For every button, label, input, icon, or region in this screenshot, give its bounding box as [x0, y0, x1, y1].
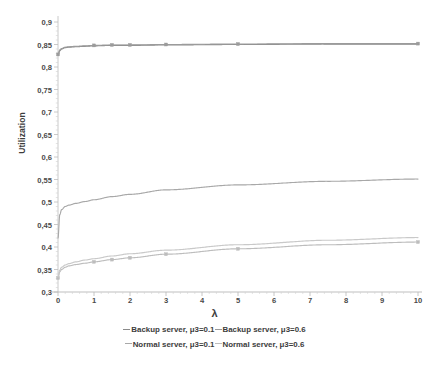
legend-row-2: Normal server, μ3=0.1Normal server, μ3=0…: [0, 336, 429, 350]
x-tick-label: 5: [236, 296, 240, 305]
line-marker-icon: [123, 329, 130, 330]
legend-item-normal-01[interactable]: Normal server, μ3=0.1: [125, 338, 215, 351]
x-tick-label: 2: [128, 296, 132, 305]
legend-label: Backup server, μ3=0.6: [223, 325, 306, 334]
line-marker-icon: [215, 329, 222, 330]
x-axis-title: λ: [0, 307, 429, 319]
x-tick-label: 1: [92, 296, 96, 305]
legend-label: Normal server, μ3=0.6: [223, 340, 305, 349]
x-tick-label: 0: [56, 296, 60, 305]
legend-item-normal-06[interactable]: Normal server, μ3=0.6: [215, 338, 305, 351]
series-line: [58, 179, 418, 238]
x-tick-label: 8: [344, 296, 348, 305]
x-tick-label: 10: [414, 296, 422, 305]
legend-row-1: Backup server, μ3=0.1Backup server, μ3=0…: [0, 322, 429, 336]
data-point-marker: [93, 260, 96, 263]
legend-item-backup-01[interactable]: Backup server, μ3=0.1: [123, 323, 214, 336]
data-point-marker: [111, 258, 114, 261]
data-point-marker: [165, 253, 168, 256]
data-point-marker: [237, 247, 240, 250]
legend-item-backup-06[interactable]: Backup server, μ3=0.6: [215, 323, 306, 336]
data-point-marker: [93, 44, 96, 47]
chart-legend: Backup server, μ3=0.1Backup server, μ3=0…: [0, 322, 429, 351]
data-point-marker: [417, 42, 420, 45]
chart-figure: Utilization 0,30,350,40,450,50,550,60,65…: [0, 0, 429, 367]
line-marker-icon: [215, 343, 222, 344]
x-tick-label: 3: [164, 296, 168, 305]
x-tick-label: 6: [272, 296, 276, 305]
x-tick-label: 7: [308, 296, 312, 305]
data-point-marker: [129, 43, 132, 46]
data-point-marker: [165, 43, 168, 46]
data-point-marker: [237, 43, 240, 46]
data-point-marker: [129, 256, 132, 259]
x-tick-label: 9: [380, 296, 384, 305]
legend-label: Normal server, μ3=0.1: [133, 340, 215, 349]
x-tick-label: 4: [200, 296, 204, 305]
data-point-marker: [417, 241, 420, 244]
legend-label: Backup server, μ3=0.1: [131, 325, 214, 334]
data-point-marker: [111, 43, 114, 46]
data-point-marker: [57, 53, 60, 56]
line-marker-icon: [125, 343, 132, 344]
